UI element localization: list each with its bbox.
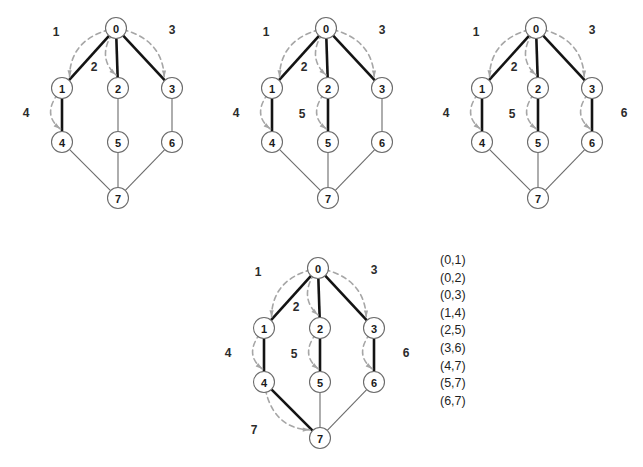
node-label-3: 3 — [589, 83, 595, 95]
panel-3: 01234567123456 — [420, 0, 635, 225]
traversal-arrow-label-5: 5 — [509, 107, 516, 121]
graph-node-2: 2 — [310, 318, 331, 339]
node-label-1: 1 — [479, 83, 485, 95]
node-label-2: 2 — [317, 323, 323, 335]
graph-node-7: 7 — [310, 428, 331, 449]
edge-list-item: (1,4) — [440, 305, 560, 323]
node-label-1: 1 — [59, 83, 65, 95]
traversal-arrow-3 — [325, 269, 368, 317]
node-label-2: 2 — [535, 83, 541, 95]
node-label-7: 7 — [317, 433, 323, 445]
node-label-2: 2 — [115, 83, 121, 95]
graph-node-7: 7 — [108, 188, 129, 209]
graph-node-2: 2 — [318, 78, 339, 99]
graph-node-1: 1 — [52, 78, 73, 99]
node-label-7: 7 — [325, 193, 331, 205]
edge-list-item: (0,1) — [440, 252, 560, 270]
graph-node-5: 5 — [108, 132, 129, 153]
traversal-arrow-label-4: 4 — [443, 106, 450, 120]
node-label-0: 0 — [323, 23, 329, 35]
node-label-5: 5 — [317, 377, 323, 389]
traversal-arrow-1 — [277, 30, 319, 78]
node-label-0: 0 — [113, 23, 119, 35]
traversal-arrow-3 — [123, 29, 166, 77]
graph-node-3: 3 — [364, 318, 385, 339]
node-label-3: 3 — [371, 323, 377, 335]
edge-list-item: (2,5) — [440, 322, 560, 340]
traversal-arrow-label-7: 7 — [251, 423, 258, 437]
graph-node-7: 7 — [528, 188, 549, 209]
edge-list-item: (6,7) — [440, 393, 560, 411]
graph-edge-4-7 — [279, 149, 320, 190]
graph-node-0: 0 — [526, 18, 547, 39]
traversal-arrow-3 — [333, 29, 376, 77]
graph-node-6: 6 — [582, 132, 603, 153]
node-label-6: 6 — [169, 137, 175, 149]
node-label-5: 5 — [325, 137, 331, 149]
panel-1: 012345671234 — [0, 0, 215, 225]
node-label-6: 6 — [379, 137, 385, 149]
traversal-arrow-2 — [307, 274, 318, 315]
traversal-arrow-label-1: 1 — [263, 25, 270, 39]
traversal-arrow-2 — [525, 34, 536, 75]
node-label-3: 3 — [379, 83, 385, 95]
traversal-arrow-1 — [269, 270, 311, 318]
traversal-arrow-label-3: 3 — [589, 23, 596, 37]
traversal-arrow-7 — [265, 389, 309, 432]
graph-node-6: 6 — [372, 132, 393, 153]
graph-edge-4-7 — [271, 389, 312, 430]
node-label-4: 4 — [479, 137, 486, 149]
graph-node-0: 0 — [308, 258, 329, 279]
graph-node-3: 3 — [372, 78, 393, 99]
traversal-arrow-label-3: 3 — [371, 263, 378, 277]
graph-edge-0-3 — [543, 36, 585, 81]
traversal-arrow-label-5: 5 — [299, 107, 306, 121]
graph-edge-0-3 — [325, 276, 367, 321]
edge-list-item: (3,6) — [440, 340, 560, 358]
node-label-2: 2 — [325, 83, 331, 95]
graph-edge-0-1 — [69, 36, 109, 80]
node-label-4: 4 — [261, 377, 268, 389]
graph-edge-0-2 — [318, 278, 319, 317]
traversal-arrow-4 — [51, 94, 61, 129]
traversal-arrow-label-6: 6 — [403, 346, 410, 360]
graph-node-4: 4 — [254, 372, 275, 393]
graph-node-1: 1 — [472, 78, 493, 99]
node-label-7: 7 — [115, 193, 121, 205]
traversal-arrow-5 — [317, 94, 327, 129]
node-label-1: 1 — [269, 83, 275, 95]
node-label-1: 1 — [261, 323, 267, 335]
edge-list-item: (4,7) — [440, 358, 560, 376]
graph-node-3: 3 — [582, 78, 603, 99]
node-label-3: 3 — [169, 83, 175, 95]
traversal-arrow-2 — [315, 34, 326, 75]
graph-edge-0-1 — [489, 36, 529, 80]
panel-4: 012345671234567 — [202, 240, 417, 465]
graph-edge-6-7 — [327, 390, 366, 431]
traversal-arrow-label-5: 5 — [291, 347, 298, 361]
edge-list-item: (5,7) — [440, 375, 560, 393]
graph-edge-0-2 — [536, 38, 537, 77]
traversal-arrow-label-2: 2 — [91, 60, 98, 74]
graph-node-0: 0 — [106, 18, 127, 39]
graph-node-6: 6 — [162, 132, 183, 153]
traversal-arrow-label-1: 1 — [473, 25, 480, 39]
node-label-4: 4 — [269, 137, 276, 149]
graph-node-5: 5 — [528, 132, 549, 153]
traversal-arrow-label-6: 6 — [621, 106, 628, 120]
traversal-arrow-label-4: 4 — [23, 106, 30, 120]
traversal-arrow-label-3: 3 — [379, 23, 386, 37]
traversal-arrow-4 — [253, 334, 263, 369]
traversal-arrow-1 — [487, 30, 529, 78]
edge-list: (0,1)(0,2)(0,3)(1,4)(2,5)(3,6)(4,7)(5,7)… — [440, 252, 560, 410]
graph-edge-0-1 — [271, 276, 311, 320]
edge-list-item: (0,3) — [440, 287, 560, 305]
graph-node-7: 7 — [318, 188, 339, 209]
traversal-arrow-2 — [105, 34, 116, 75]
graph-node-1: 1 — [254, 318, 275, 339]
traversal-arrow-label-4: 4 — [225, 346, 232, 360]
graph-node-0: 0 — [316, 18, 337, 39]
graph-node-4: 4 — [472, 132, 493, 153]
traversal-arrow-label-1: 1 — [255, 265, 262, 279]
graph-edge-6-7 — [335, 150, 374, 191]
